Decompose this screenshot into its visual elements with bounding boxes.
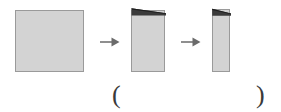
sheet-folded-once	[131, 10, 165, 72]
answer-close-paren: )	[256, 82, 265, 108]
answer-open-paren: (	[112, 82, 121, 108]
fold-crease-flap-icon	[210, 3, 232, 12]
unfolded-square-sheet	[15, 10, 84, 72]
sheet-folded-twice	[212, 9, 230, 72]
paper-folding-sequence-figure: ( )	[0, 0, 281, 112]
right-arrow-icon	[180, 34, 202, 50]
right-arrow-icon	[99, 34, 121, 50]
fold-crease-flap-icon	[129, 3, 167, 13]
